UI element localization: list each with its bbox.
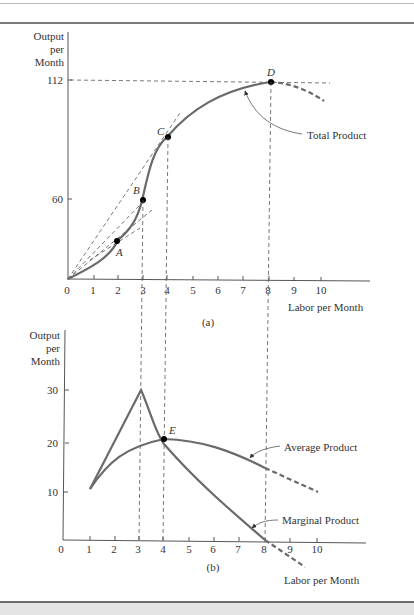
average-product-curve-dashed: [265, 468, 318, 492]
svg-text:5: 5: [186, 543, 192, 555]
point-c-label: C: [157, 125, 165, 137]
total-product-arrow: [245, 91, 302, 134]
svg-text:3: 3: [140, 284, 146, 296]
svg-text:6: 6: [210, 543, 216, 555]
chart-a-caption: (a): [202, 316, 215, 329]
point-a: [114, 238, 120, 244]
svg-text:1: 1: [90, 284, 96, 296]
chart-b-ylabel-line3: Month: [31, 355, 61, 367]
svg-text:8: 8: [261, 543, 267, 555]
chart-b-ytick-10: 10: [47, 486, 59, 498]
svg-text:1: 1: [86, 543, 92, 555]
chart-a-ytick-60: 60: [52, 193, 64, 205]
chart-a: Output per Month 112 60 0 1 2 3: [33, 30, 370, 329]
svg-text:3: 3: [135, 543, 141, 555]
point-e-label: E: [168, 424, 176, 436]
point-e: [161, 436, 167, 442]
chart-a-xlabel: Labor per Month: [288, 301, 364, 313]
chart-b: Output per Month 30 20 10 0 1 2 3 4: [29, 329, 366, 586]
chart-a-reference-lines: [68, 80, 330, 279]
connector-lines: [139, 82, 271, 540]
average-product-curve: [90, 439, 265, 489]
point-b-label: B: [133, 184, 140, 196]
svg-text:0: 0: [64, 284, 70, 296]
chart-a-ylabel-line1: Output: [33, 30, 64, 42]
chart-a-ytick-112: 112: [47, 74, 63, 86]
figure-bottom-border: [0, 601, 414, 615]
point-d-label: D: [266, 66, 275, 78]
total-product-curve-dashed: [270, 82, 324, 101]
chart-b-ytick-30: 30: [47, 384, 59, 396]
marginal-product-curve-dashed: [265, 540, 305, 567]
point-a-label: A: [115, 246, 123, 258]
total-product-label: Total Product: [307, 129, 366, 141]
svg-text:4: 4: [164, 284, 170, 296]
svg-text:9: 9: [291, 284, 297, 296]
average-product-arrow: [250, 446, 280, 458]
svg-text:5: 5: [190, 284, 196, 296]
chart-b-caption: (b): [207, 561, 220, 574]
svg-text:2: 2: [111, 543, 117, 555]
chart-b-y-axis: [63, 330, 65, 540]
marginal-product-curve: [90, 390, 265, 540]
svg-text:0: 0: [58, 543, 64, 555]
svg-text:9: 9: [287, 543, 293, 555]
svg-text:10: 10: [312, 543, 324, 555]
svg-text:10: 10: [316, 284, 328, 296]
svg-text:7: 7: [240, 284, 246, 296]
svg-text:2: 2: [115, 284, 121, 296]
chart-b-xlabel: Labor per Month: [284, 574, 360, 586]
marginal-product-label: Marginal Product: [282, 514, 359, 526]
average-product-label: Average Product: [284, 441, 357, 453]
chart-b-ylabel-line1: Output: [29, 329, 60, 341]
total-product-curve: [68, 82, 270, 279]
chart-a-x-tick-labels: 0 1 2 3 4 5 6 7 8 9 10: [64, 284, 327, 296]
chart-b-x-tick-labels: 0 1 2 3 4 5 6 7 8 9 10: [58, 543, 323, 555]
chart-b-ylabel-line2: per: [46, 342, 60, 354]
svg-text:4: 4: [160, 543, 166, 555]
svg-text:7: 7: [235, 543, 241, 555]
chart-b-ytick-20: 20: [47, 437, 59, 449]
svg-text:6: 6: [215, 284, 221, 296]
chart-a-ylabel-line2: per: [50, 43, 64, 55]
chart-a-ylabel-line3: Month: [35, 56, 65, 68]
